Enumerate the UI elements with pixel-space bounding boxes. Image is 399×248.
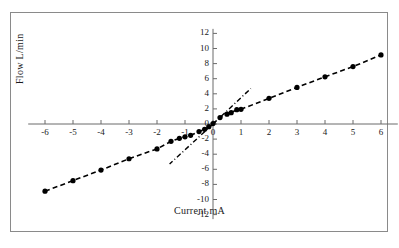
data-point xyxy=(168,139,173,144)
y-tick-label: -2 xyxy=(183,134,209,143)
data-point xyxy=(217,115,222,120)
x-tick-label: -6 xyxy=(35,128,55,137)
y-tick-label: 8 xyxy=(183,59,209,68)
x-tick-label: -4 xyxy=(91,128,111,137)
data-point xyxy=(294,85,299,90)
y-tick-label: -8 xyxy=(183,179,209,188)
data-point xyxy=(42,189,47,194)
x-tick-label: 6 xyxy=(371,128,391,137)
x-tick-label: 3 xyxy=(287,128,307,137)
data-point xyxy=(210,121,215,126)
y-tick-label: 2 xyxy=(183,104,209,113)
figure-container: Flow L/min Current mA -6-5-4-3-2-1012345… xyxy=(0,0,399,248)
data-point xyxy=(350,64,355,69)
y-tick-label: 0 xyxy=(183,119,209,128)
y-tick-label: -4 xyxy=(183,149,209,158)
y-tick-label: 10 xyxy=(183,44,209,53)
x-tick-label: -3 xyxy=(119,128,139,137)
data-point xyxy=(154,146,159,151)
y-tick-label: -12 xyxy=(183,210,209,219)
data-point xyxy=(98,167,103,172)
data-point xyxy=(378,52,383,57)
x-tick-label: 4 xyxy=(315,128,335,137)
data-point xyxy=(229,110,234,115)
x-tick-label: 1 xyxy=(231,128,251,137)
data-point xyxy=(266,96,271,101)
x-tick-label: -5 xyxy=(63,128,83,137)
y-tick-label: 6 xyxy=(183,74,209,83)
data-point xyxy=(70,178,75,183)
data-point xyxy=(126,156,131,161)
data-point xyxy=(238,107,243,112)
data-point xyxy=(322,74,327,79)
y-tick-label: -10 xyxy=(183,195,209,204)
y-tick-label: -6 xyxy=(183,164,209,173)
y-tick-label: 4 xyxy=(183,89,209,98)
x-tick-label: 5 xyxy=(343,128,363,137)
y-tick-label: 12 xyxy=(183,28,209,37)
x-tick-label: -2 xyxy=(147,128,167,137)
x-tick-label: 2 xyxy=(259,128,279,137)
